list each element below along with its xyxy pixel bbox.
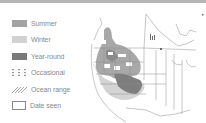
legend-item-summer: Summer	[12, 15, 82, 32]
legend-label: Year-round	[31, 53, 64, 60]
summer-swatch	[12, 20, 27, 27]
occasional-dots-icon	[12, 69, 27, 76]
legend-label: Winter	[31, 36, 51, 43]
summer-range	[96, 27, 141, 81]
winter-swatch	[12, 36, 27, 43]
legend-item-year-round: Year-round	[12, 48, 82, 65]
legend-label: Occasional	[31, 69, 65, 76]
legend-item-occasional: Occasional	[12, 65, 82, 82]
legend-item-ocean-range: Ocean range	[12, 81, 82, 98]
map-legend: Summer Winter Year-round Occasional Ocea…	[12, 15, 82, 114]
legend-label: Summer	[31, 20, 57, 27]
legend-item-date-seen: Date seen	[12, 98, 82, 115]
year-round-swatch	[12, 53, 27, 60]
range-map	[86, 10, 206, 123]
top-divider	[0, 0, 206, 3]
legend-label: Date seen	[30, 102, 61, 109]
legend-label: Ocean range	[31, 86, 70, 93]
outline-box-icon	[12, 101, 26, 110]
ocean-hatch-icon	[12, 86, 27, 93]
legend-item-winter: Winter	[12, 32, 82, 49]
